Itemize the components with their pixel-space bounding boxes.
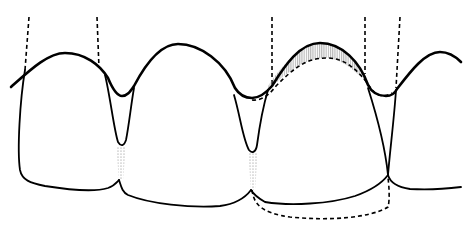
papilla-1 bbox=[105, 75, 134, 145]
tooth-1-outline bbox=[19, 70, 119, 190]
tooth-4-mesial-edge bbox=[388, 90, 396, 175]
root-axis-5 bbox=[396, 17, 400, 88]
dental-diagram bbox=[0, 0, 473, 228]
tooth-3-distal-edge bbox=[368, 88, 388, 175]
contact-area-2 bbox=[248, 152, 258, 190]
teeth-drawing bbox=[0, 0, 473, 228]
proposed-incisal-contour bbox=[252, 178, 389, 219]
contact-area-1 bbox=[116, 146, 126, 180]
gingival-margin bbox=[11, 43, 461, 98]
graft-area-hatching bbox=[268, 43, 370, 90]
papilla-2 bbox=[234, 90, 268, 152]
tooth-2-outline bbox=[119, 180, 251, 207]
tooth-3-outline bbox=[251, 175, 388, 204]
root-axis-1 bbox=[25, 17, 29, 70]
root-axis-2 bbox=[97, 17, 99, 68]
tooth-4-outline bbox=[388, 175, 461, 189]
